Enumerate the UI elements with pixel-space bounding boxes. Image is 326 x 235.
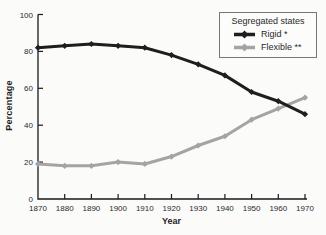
x-tick-label: 1900 — [109, 204, 127, 213]
x-tick-label: 1930 — [189, 204, 207, 213]
legend-title: Segregated states — [220, 16, 316, 26]
legend-label-rigid: Rigid * — [261, 29, 288, 39]
y-tick-label: 0 — [29, 195, 34, 204]
data-point-marker — [115, 159, 121, 165]
data-point-marker — [115, 43, 121, 49]
data-point-marker — [88, 163, 94, 169]
rigid-line-marker-icon — [233, 30, 256, 39]
x-tick-label: 1880 — [56, 204, 74, 213]
legend-label-flexible: Flexible ** — [261, 42, 302, 52]
y-tick-label: 60 — [24, 84, 33, 93]
x-tick-label: 1920 — [163, 204, 181, 213]
data-point-marker — [35, 45, 41, 51]
data-point-marker — [142, 45, 148, 51]
y-tick-label: 20 — [24, 158, 33, 167]
x-tick-label: 1910 — [136, 204, 154, 213]
legend: Segregated states Rigid * Flexible ** — [219, 12, 317, 58]
chart-page: 0204060801001870188018901900191019201930… — [0, 0, 326, 235]
data-point-marker — [88, 41, 94, 47]
legend-item-rigid: Rigid * — [220, 29, 316, 39]
x-tick-label: 1960 — [269, 204, 287, 213]
data-point-marker — [62, 43, 68, 49]
data-point-marker — [142, 161, 148, 167]
y-tick-label: 80 — [24, 47, 33, 56]
x-tick-label: 1870 — [29, 204, 47, 213]
y-axis-title: Percentage — [4, 76, 15, 136]
x-tick-label: 1970 — [296, 204, 314, 213]
y-tick-label: 100 — [20, 11, 34, 20]
flexible-line-marker-icon — [233, 43, 256, 52]
y-tick-label: 40 — [24, 121, 33, 130]
x-tick-label: 1940 — [216, 204, 234, 213]
legend-item-flexible: Flexible ** — [220, 42, 316, 52]
data-point-marker — [62, 163, 68, 169]
x-tick-label: 1890 — [83, 204, 101, 213]
x-axis-title: Year — [38, 216, 305, 226]
x-tick-label: 1950 — [243, 204, 261, 213]
